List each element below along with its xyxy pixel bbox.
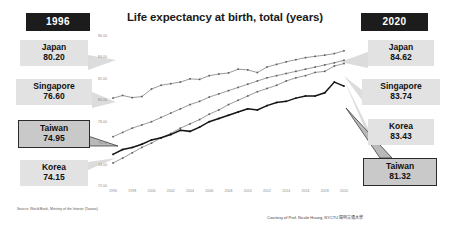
y-axis-tick: 78.00 — [89, 120, 107, 124]
y-axis-tick: 86.00 — [89, 34, 107, 38]
y-axis-tick: 72.00 — [89, 184, 107, 188]
data-point — [257, 72, 259, 74]
y-axis-tick: 82.00 — [89, 77, 107, 81]
data-point — [122, 95, 124, 97]
data-point — [324, 54, 326, 56]
data-point — [285, 101, 287, 103]
data-point — [324, 92, 326, 94]
data-point — [180, 127, 182, 129]
data-point — [131, 97, 133, 99]
year-badge-right: 2020 — [361, 13, 428, 31]
callout-right-korea: Korea 83.43 — [368, 119, 434, 145]
data-point — [151, 121, 153, 123]
data-point — [199, 126, 201, 128]
x-axis-tick: 2010 — [239, 189, 257, 193]
x-axis-tick: 2012 — [258, 189, 276, 193]
source-note: Source: World Bank, Ministry of the Inte… — [17, 207, 98, 211]
data-point — [218, 73, 220, 75]
data-point — [295, 59, 297, 61]
callout-right-japan: Japan 84.62 — [368, 40, 434, 66]
data-point — [208, 121, 210, 123]
callout-left-korea: Korea 74.15 — [20, 160, 88, 186]
data-point — [257, 109, 259, 111]
data-point — [131, 152, 133, 154]
data-point — [276, 102, 278, 104]
data-point — [266, 66, 268, 68]
x-axis-tick: 2016 — [297, 189, 315, 193]
data-point — [324, 64, 326, 66]
data-point — [237, 111, 239, 113]
data-point — [276, 84, 278, 86]
data-point — [180, 129, 182, 131]
callout-right-taiwan: Taiwan 81.32 — [363, 158, 437, 186]
data-point — [324, 71, 326, 73]
data-point — [295, 77, 297, 79]
data-point — [122, 149, 124, 151]
data-point — [314, 56, 316, 58]
data-point — [112, 154, 114, 156]
data-point — [266, 88, 268, 90]
x-axis-tick: 2004 — [181, 189, 199, 193]
data-point — [160, 117, 162, 119]
callout-value: 81.32 — [364, 172, 436, 182]
series-line-taiwan — [113, 82, 344, 154]
data-point — [228, 114, 230, 116]
data-point — [199, 119, 201, 121]
data-point — [151, 88, 153, 90]
x-axis-tick: 1998 — [123, 189, 141, 193]
data-point — [343, 59, 345, 61]
data-point — [295, 97, 297, 99]
callout-value: 83.43 — [368, 132, 434, 142]
data-point — [285, 73, 287, 75]
data-point — [276, 75, 278, 77]
callout-right-singapore: Singapore 83.74 — [362, 79, 440, 105]
series-line-singapore — [113, 60, 344, 137]
data-point — [228, 104, 230, 106]
year-badge-left: 1996 — [26, 13, 90, 31]
credit-note: Courtesy of Prof. Nicole Huang, NYCTU 陽明… — [267, 214, 363, 220]
data-point — [180, 81, 182, 83]
data-point — [112, 162, 114, 164]
callout-left-singapore: Singapore 76.60 — [16, 79, 92, 105]
data-point — [305, 68, 307, 70]
data-point — [208, 75, 210, 77]
data-point — [218, 93, 220, 95]
data-point — [334, 53, 336, 55]
data-point — [160, 137, 162, 139]
data-point — [314, 72, 316, 74]
data-point — [343, 50, 345, 52]
data-point — [189, 104, 191, 106]
data-point — [160, 84, 162, 86]
data-point — [343, 85, 345, 87]
data-point — [112, 136, 114, 138]
data-point — [170, 83, 172, 85]
y-axis-tick: 76.00 — [89, 141, 107, 145]
data-point — [334, 81, 336, 83]
data-point — [131, 127, 133, 129]
data-point — [237, 99, 239, 101]
data-point — [199, 79, 201, 81]
page-title: Life expectancy at birth, total (years) — [105, 11, 345, 23]
line-chart — [0, 0, 450, 230]
x-axis-tick: 2002 — [162, 189, 180, 193]
y-axis-tick: 80.00 — [89, 98, 107, 102]
data-point — [334, 62, 336, 64]
data-point — [180, 108, 182, 110]
data-point — [218, 118, 220, 120]
data-point — [247, 69, 249, 71]
data-point — [266, 77, 268, 79]
data-point — [295, 71, 297, 73]
data-point — [112, 97, 114, 99]
data-point — [189, 123, 191, 125]
data-point — [237, 68, 239, 70]
data-point — [285, 80, 287, 82]
x-axis-tick: 1996 — [104, 189, 122, 193]
data-point — [141, 143, 143, 145]
callout-left-taiwan: Taiwan 74.95 — [18, 120, 90, 148]
x-axis-tick: 2018 — [316, 189, 334, 193]
callout-value: 76.60 — [16, 92, 92, 102]
x-axis-tick: 2000 — [143, 189, 161, 193]
data-point — [170, 134, 172, 136]
data-point — [237, 87, 239, 89]
data-point — [305, 75, 307, 77]
